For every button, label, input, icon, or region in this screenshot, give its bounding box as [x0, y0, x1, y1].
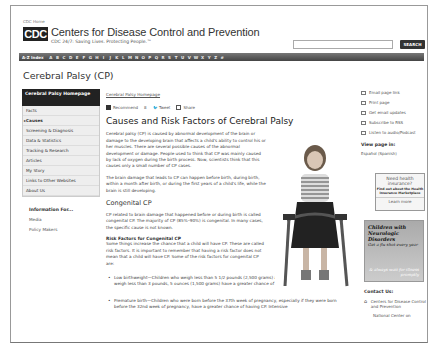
right-sidebar: Email page link Print page Get email upd…	[361, 88, 427, 156]
article-heading: Causes and Risk Factors of Cerebral Pals…	[106, 116, 351, 126]
building-icon: ⌂	[364, 299, 368, 309]
info-link-media[interactable]: Media	[29, 217, 100, 222]
tool-label: Listen to audio/Podcast	[369, 128, 416, 138]
tagline: CDC 24/7: Saving Lives. Protecting Peopl…	[51, 39, 151, 44]
sidebar-item-screening[interactable]: Screening & Diagnosis	[23, 126, 99, 136]
cdc-logo[interactable]: CDC	[23, 27, 48, 41]
ad-title: Need health insurance?	[376, 176, 424, 186]
search-input[interactable]	[293, 40, 393, 49]
information-for: Information For... Media Policy Makers	[22, 207, 100, 232]
tool-email-updates[interactable]: Get email updates	[361, 108, 427, 118]
ad-footer: & always wait for illness promptly	[365, 267, 419, 277]
az-letter[interactable]: P	[146, 55, 153, 60]
cdc-home-link[interactable]: CDC Home	[23, 19, 45, 24]
az-letter[interactable]: D	[67, 55, 74, 60]
paragraph: CP related to brain damage that happened…	[106, 212, 266, 231]
sidebar-item-my-story[interactable]: My Story	[23, 166, 99, 176]
tool-label: Print page	[369, 98, 389, 108]
share-icon	[176, 105, 181, 110]
sidebar-item-facts[interactable]: Facts	[23, 106, 99, 116]
rss-icon	[361, 121, 366, 125]
az-letter[interactable]: B	[54, 55, 61, 60]
facebook-recommend-button[interactable]: Recommend	[106, 105, 138, 110]
contact-org-name: Centers for Disease Control and Preventi…	[371, 299, 426, 309]
sidebar-item-links[interactable]: Links to Other Websites	[23, 176, 99, 186]
az-letter[interactable]: K	[113, 55, 120, 60]
breadcrumb[interactable]: Cerebral Palsy Homepage	[106, 92, 351, 97]
ad-title: Children with Neurologic Disorders	[368, 224, 420, 242]
sidebar-item-data[interactable]: Data & Statistics	[23, 136, 99, 146]
health-insurance-ad[interactable]: Need health insurance? Find out about th…	[375, 173, 425, 211]
tweet-label: Tweet	[159, 105, 171, 110]
tool-podcast[interactable]: Listen to audio/Podcast	[361, 128, 427, 138]
az-letter[interactable]: N	[133, 55, 140, 60]
az-letter[interactable]: R	[160, 55, 167, 60]
tweet-button[interactable]: 🐦 Tweet	[153, 105, 171, 110]
az-letter[interactable]: O	[140, 55, 147, 60]
az-letter[interactable]: T	[173, 55, 180, 60]
sidebar-list: Facts Causes Screening & Diagnosis Data …	[22, 106, 100, 197]
info-link-policy-makers[interactable]: Policy Makers	[29, 227, 100, 232]
print-icon	[361, 101, 366, 105]
az-letter[interactable]: Q	[153, 55, 160, 60]
az-letter[interactable]: Z	[212, 55, 219, 60]
email-updates-icon	[361, 111, 366, 115]
sidebar-item-causes[interactable]: Causes	[23, 116, 99, 126]
list-item: Premature birth—Children who were born b…	[106, 298, 351, 311]
sidebar-item-tracking[interactable]: Tracking & Research	[23, 146, 99, 156]
az-letter[interactable]: #	[219, 55, 226, 60]
az-letter[interactable]: J	[107, 55, 114, 60]
az-letter[interactable]: F	[81, 55, 88, 60]
az-letter[interactable]: H	[94, 55, 101, 60]
az-letter[interactable]: S	[166, 55, 173, 60]
page-title: Cerebral Palsy (CP)	[23, 70, 114, 81]
az-index-label[interactable]: A-Z Index	[22, 55, 44, 60]
neurologic-flu-ad[interactable]: Children with Neurologic Disorders Get a…	[364, 220, 424, 282]
sidebar-home-link[interactable]: Cerebral Palsy Homepage	[22, 89, 100, 106]
child-with-walker-photo	[275, 140, 355, 288]
az-letter[interactable]: X	[199, 55, 206, 60]
az-letter[interactable]: V	[186, 55, 193, 60]
sidebar-item-articles[interactable]: Articles	[23, 156, 99, 166]
text-column: Cerebral palsy (CP) is caused by abnorma…	[106, 131, 266, 267]
contact-org: ⌂ Centers for Disease Control and Preven…	[364, 299, 426, 309]
tool-label: Email page link	[369, 88, 400, 98]
contact-center: National Center on	[373, 313, 426, 318]
congenital-heading: Congenital CP	[106, 199, 266, 207]
az-letter[interactable]: E	[74, 55, 81, 60]
information-for-title: Information For...	[29, 207, 100, 212]
espanol-link[interactable]: Español (Spanish)	[361, 151, 427, 156]
az-letter[interactable]: G	[87, 55, 94, 60]
az-letter[interactable]: W	[193, 55, 200, 60]
paragraph: The brain damage that leads to CP can ha…	[106, 175, 266, 194]
tool-rss[interactable]: Subscribe to RSS	[361, 118, 427, 128]
az-letter[interactable]: A	[48, 55, 55, 60]
az-letter[interactable]: I	[100, 55, 107, 60]
tool-label: Get email updates	[369, 108, 406, 118]
tool-print-page[interactable]: Print page	[361, 98, 427, 108]
az-letter[interactable]: M	[127, 55, 134, 60]
tool-label: Subscribe to RSS	[369, 118, 403, 128]
search-button[interactable]: SEARCH	[400, 40, 425, 49]
az-letter[interactable]: L	[120, 55, 127, 60]
tool-email-page[interactable]: Email page link	[361, 88, 427, 98]
share-label: Share	[183, 105, 195, 110]
paragraph: Some things increase the chance that a c…	[106, 241, 266, 267]
share-button[interactable]: Share	[176, 105, 195, 110]
browser-page: CDC Home CDC Centers for Disease Control…	[10, 5, 428, 343]
az-letter[interactable]: C	[61, 55, 68, 60]
headphones-icon	[361, 131, 366, 135]
facebook-count: 8	[144, 105, 147, 110]
az-letter[interactable]: Y	[206, 55, 213, 60]
contact-us: Contact Us: ⌂ Centers for Disease Contro…	[364, 289, 426, 318]
az-index-bar: A-Z Index A B C D E F G H I J K L M N O …	[19, 53, 424, 61]
contact-title: Contact Us:	[364, 289, 426, 294]
az-letter[interactable]: U	[179, 55, 186, 60]
sidebar-nav: Cerebral Palsy Homepage Facts Causes Scr…	[22, 89, 100, 237]
ad-subtitle: Find out about the Health Insurance Mark…	[376, 187, 424, 195]
facebook-label: Recommend	[113, 105, 138, 110]
learn-more-link[interactable]: Learn more	[376, 197, 424, 204]
email-icon	[361, 91, 366, 95]
ad-subtitle: Get a flu shot every year	[368, 242, 420, 247]
sidebar-item-about[interactable]: About Us	[23, 186, 99, 196]
